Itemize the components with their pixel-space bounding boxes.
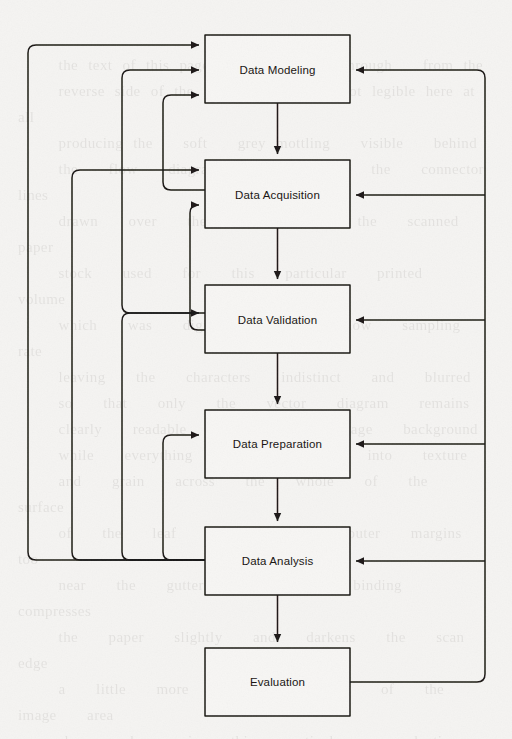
node-label-data-analysis: Data Analysis (242, 555, 314, 567)
evaluation-right-bus (350, 70, 485, 682)
node-label-data-acquisition: Data Acquisition (235, 189, 320, 201)
flowchart-svg (0, 0, 512, 739)
feedback-acquisition-to-modeling (163, 95, 205, 190)
feedback-analysis-to-modeling (28, 45, 205, 560)
feedback-analysis-to-preparation (163, 435, 205, 560)
node-label-evaluation: Evaluation (250, 676, 305, 688)
feedback-analysis-to-acquisition (72, 170, 205, 560)
node-label-data-preparation: Data Preparation (233, 438, 322, 450)
scanned-page: the text of this page bleeds faintly thr… (0, 0, 512, 739)
node-label-data-validation: Data Validation (238, 314, 317, 326)
feedback-validation-to-acquisition (190, 205, 205, 330)
node-label-data-modeling: Data Modeling (239, 64, 315, 76)
